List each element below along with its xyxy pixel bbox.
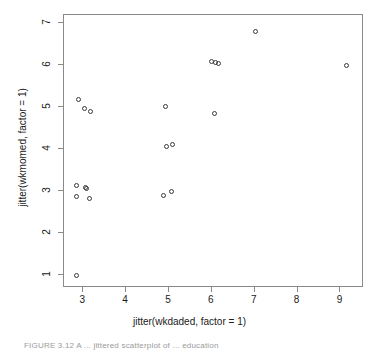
- data-point: [212, 111, 217, 116]
- data-point: [74, 183, 79, 188]
- data-point: [170, 142, 175, 147]
- x-tick-label: 3: [72, 294, 92, 306]
- y-tick: [58, 22, 63, 23]
- y-tick: [58, 232, 63, 233]
- figure-page: jitter(wkdaded, factor = 1) jitter(wkmom…: [0, 0, 379, 353]
- data-point: [163, 104, 168, 109]
- x-axis-label: jitter(wkdaded, factor = 1): [0, 316, 379, 327]
- y-tick-label: 3: [41, 183, 53, 197]
- y-tick-label: 4: [41, 141, 53, 155]
- x-tick: [254, 287, 255, 292]
- y-tick-label: 6: [41, 57, 53, 71]
- y-tick: [58, 148, 63, 149]
- x-tick: [125, 287, 126, 292]
- data-point: [216, 61, 221, 66]
- data-point: [88, 109, 93, 114]
- data-point: [169, 189, 174, 194]
- x-tick: [211, 287, 212, 292]
- y-tick: [58, 274, 63, 275]
- x-tick-label: 5: [158, 294, 178, 306]
- scatter-points-layer: [64, 15, 362, 286]
- figure-caption: FIGURE 3.12 A ... jittered scatterplot o…: [24, 341, 364, 350]
- x-tick-label: 4: [115, 294, 135, 306]
- plot-area: [63, 14, 363, 287]
- y-tick: [58, 64, 63, 65]
- y-tick: [58, 190, 63, 191]
- data-point: [87, 196, 92, 201]
- y-axis-label: jitter(wkmomed, factor = 1): [17, 48, 28, 248]
- x-tick: [168, 287, 169, 292]
- x-tick-label: 7: [244, 294, 264, 306]
- x-tick-label: 9: [329, 294, 349, 306]
- data-point: [76, 97, 81, 102]
- y-tick-label: 7: [41, 15, 53, 29]
- y-tick: [58, 106, 63, 107]
- data-point: [84, 186, 89, 191]
- data-point: [161, 193, 166, 198]
- y-tick-label: 1: [41, 267, 53, 281]
- data-point: [74, 273, 79, 278]
- x-tick-label: 8: [287, 294, 307, 306]
- data-point: [82, 106, 87, 111]
- data-point: [74, 194, 79, 199]
- x-tick: [339, 287, 340, 292]
- x-tick-label: 6: [201, 294, 221, 306]
- data-point: [344, 63, 349, 68]
- x-tick: [297, 287, 298, 292]
- y-tick-label: 2: [41, 225, 53, 239]
- data-point: [164, 144, 169, 149]
- x-tick: [82, 287, 83, 292]
- data-point: [253, 29, 258, 34]
- y-tick-label: 5: [41, 99, 53, 113]
